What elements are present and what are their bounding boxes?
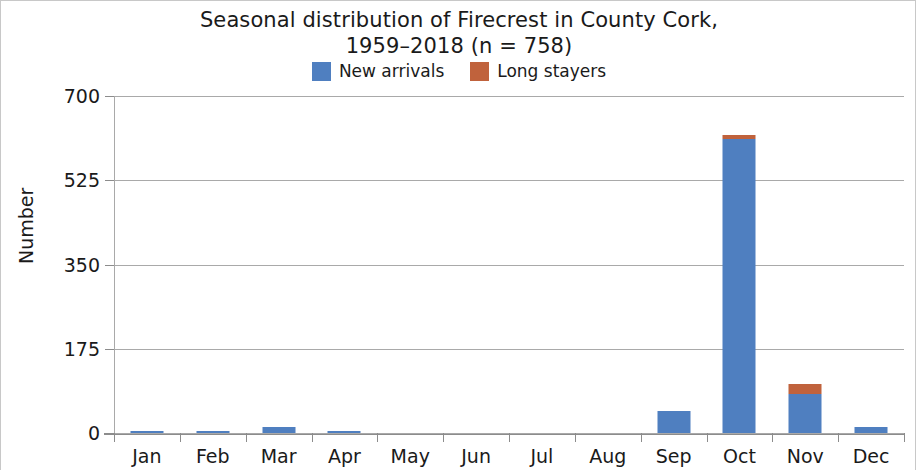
- bar-slot: [707, 96, 773, 433]
- bar-slot: [114, 96, 180, 433]
- x-tick: [575, 433, 576, 442]
- y-tick-label-525: 525: [64, 169, 100, 191]
- bar-segment-new-arrivals[interactable]: [657, 411, 690, 433]
- bar-slot: [377, 96, 443, 433]
- bar-segment-new-arrivals[interactable]: [855, 427, 888, 433]
- bar-slot: [641, 96, 707, 433]
- bar-segment-new-arrivals[interactable]: [328, 431, 361, 433]
- x-tick-label-oct: Oct: [723, 445, 756, 467]
- x-tick-label-aug: Aug: [589, 445, 626, 467]
- legend-item-long-stayers: Long stayers: [470, 61, 606, 81]
- legend-swatch-new-arrivals: [312, 62, 331, 81]
- bar-segment-long-stayers[interactable]: [789, 384, 822, 394]
- y-tick-0: [105, 433, 114, 434]
- y-tick-525: [105, 180, 114, 181]
- bar-slot: [312, 96, 378, 433]
- bar-slot: [180, 96, 246, 433]
- legend-label-new-arrivals: New arrivals: [339, 61, 444, 81]
- bar-segment-new-arrivals[interactable]: [130, 431, 163, 433]
- x-tick: [114, 433, 115, 442]
- plot-area: 0175350525700 JanFebMarAprMayJunJulAugSe…: [114, 96, 904, 433]
- chart-title-line-2: 1959–2018 (n = 758): [1, 33, 916, 59]
- bar-segment-new-arrivals[interactable]: [262, 427, 295, 433]
- x-tick-label-jan: Jan: [132, 445, 161, 467]
- chart-legend: New arrivals Long stayers: [1, 61, 916, 81]
- x-tick-label-jun: Jun: [461, 445, 491, 467]
- y-tick-175: [105, 349, 114, 350]
- bar-slot: [838, 96, 904, 433]
- legend-item-new-arrivals: New arrivals: [312, 61, 444, 81]
- y-tick-label-350: 350: [64, 254, 100, 276]
- chart-title: Seasonal distribution of Firecrest in Co…: [1, 7, 916, 59]
- bar-series-group: [114, 96, 904, 433]
- chart-title-line-1: Seasonal distribution of Firecrest in Co…: [1, 7, 916, 33]
- x-tick: [838, 433, 839, 442]
- y-tick-label-175: 175: [64, 338, 100, 360]
- x-tick-label-sep: Sep: [656, 445, 692, 467]
- x-tick: [707, 433, 708, 442]
- x-tick-label-nov: Nov: [787, 445, 824, 467]
- legend-swatch-long-stayers: [470, 62, 489, 81]
- x-tick-label-jul: Jul: [530, 445, 553, 467]
- legend-label-long-stayers: Long stayers: [497, 61, 606, 81]
- bar-stack[interactable]: [789, 384, 822, 433]
- x-tick: [904, 433, 905, 442]
- x-tick: [772, 433, 773, 442]
- y-tick-700: [105, 96, 114, 97]
- x-tick: [641, 433, 642, 442]
- bar-stack[interactable]: [262, 427, 295, 433]
- x-tick-label-feb: Feb: [196, 445, 230, 467]
- bar-stack[interactable]: [855, 427, 888, 433]
- x-tick-label-apr: Apr: [328, 445, 361, 467]
- x-tick: [246, 433, 247, 442]
- bar-stack[interactable]: [328, 431, 361, 433]
- x-tick-label-may: May: [391, 445, 430, 467]
- bar-stack[interactable]: [196, 431, 229, 433]
- x-tick: [312, 433, 313, 442]
- x-tick-label-dec: Dec: [853, 445, 890, 467]
- bar-segment-new-arrivals[interactable]: [723, 139, 756, 433]
- y-tick-label-700: 700: [64, 85, 100, 107]
- bar-slot: [246, 96, 312, 433]
- y-tick-350: [105, 265, 114, 266]
- bar-slot: [509, 96, 575, 433]
- x-tick: [443, 433, 444, 442]
- x-tick: [509, 433, 510, 442]
- bar-stack[interactable]: [657, 411, 690, 433]
- y-axis-title: Number: [15, 188, 37, 264]
- bar-stack[interactable]: [130, 431, 163, 433]
- x-tick: [377, 433, 378, 442]
- x-tick-label-mar: Mar: [261, 445, 297, 467]
- chart-figure: Seasonal distribution of Firecrest in Co…: [0, 0, 916, 470]
- bar-segment-new-arrivals[interactable]: [789, 394, 822, 433]
- bar-slot: [575, 96, 641, 433]
- bar-stack[interactable]: [723, 135, 756, 433]
- y-tick-label-0: 0: [88, 422, 100, 444]
- x-tick: [180, 433, 181, 442]
- bar-slot: [443, 96, 509, 433]
- bar-slot: [772, 96, 838, 433]
- bar-segment-new-arrivals[interactable]: [196, 431, 229, 433]
